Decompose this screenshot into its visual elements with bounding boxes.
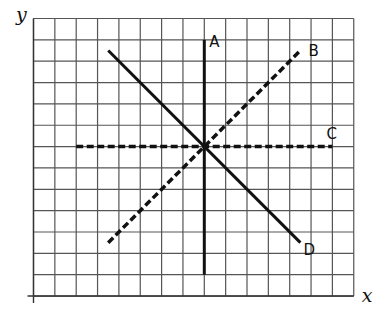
y-axis-label: y bbox=[15, 3, 27, 25]
x-axis-label: x bbox=[362, 284, 373, 306]
line-label-a: A bbox=[209, 33, 220, 51]
labeled-lines: ABCD bbox=[76, 33, 337, 275]
line-diagram: x y ABCD bbox=[0, 0, 376, 317]
line-label-b: B bbox=[308, 42, 318, 60]
line-label-c: C bbox=[326, 125, 336, 143]
axes: x y bbox=[15, 3, 373, 307]
line-label-d: D bbox=[303, 241, 315, 259]
